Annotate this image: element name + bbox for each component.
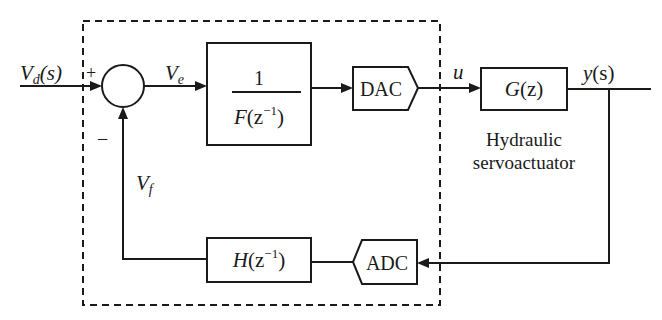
input-signal-label: Vd(s) [20, 61, 62, 87]
plant-caption-line1: Hydraulic [486, 129, 562, 150]
error-signal-label: Ve [165, 61, 184, 87]
adc-label: ADC [366, 252, 408, 274]
control-signal-label: u [453, 60, 464, 84]
minus-sign: − [97, 128, 108, 150]
summing-junction [102, 65, 144, 107]
controller-denominator: F(z−1) [233, 103, 284, 129]
adc-input-arrow-icon [417, 258, 429, 268]
controller-numerator: 1 [254, 67, 264, 89]
block-diagram: Vd(s) + − Ve 1 F(z−1) DAC u G(z) Hydraul… [0, 0, 662, 320]
dac-input-arrow-icon [341, 83, 353, 93]
feedback-signal-label: Vf [136, 171, 155, 197]
plant-label: G(z) [505, 77, 543, 101]
plant-caption-line2: servoactuator [473, 152, 576, 173]
feedback-arrow-icon [118, 107, 128, 119]
error-arrow-icon [195, 81, 207, 91]
plant-input-arrow-icon [469, 83, 481, 93]
dac-label: DAC [360, 78, 402, 100]
output-signal-label: y(s) [581, 61, 615, 85]
feedback-line-right [426, 89, 609, 263]
controller-block [207, 43, 311, 145]
plus-sign: + [86, 63, 96, 83]
